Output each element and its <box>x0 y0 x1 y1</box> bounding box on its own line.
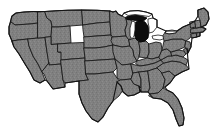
region-northeast <box>162 8 209 52</box>
state-south-dakota[interactable] <box>83 22 111 37</box>
state-florida[interactable] <box>149 88 184 126</box>
us-map-figure: Map of the United States Outline map of … <box>0 0 214 134</box>
state-new-mexico[interactable] <box>61 58 88 83</box>
state-indiana[interactable] <box>139 41 149 58</box>
state-minnesota[interactable] <box>110 11 127 37</box>
us-map-svg <box>0 0 214 134</box>
state-colorado[interactable] <box>58 43 85 61</box>
michigan-lower-peninsula[interactable] <box>134 20 149 42</box>
lake-huron <box>148 18 157 33</box>
region-west <box>9 10 88 89</box>
state-wyoming[interactable] <box>51 26 71 45</box>
